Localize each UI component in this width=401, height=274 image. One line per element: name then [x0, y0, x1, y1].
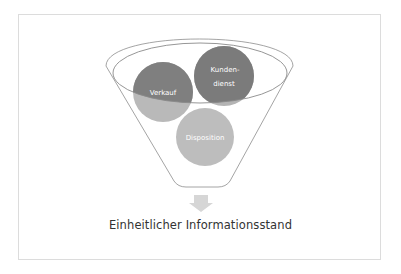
label-kundendienst-2: dienst: [213, 80, 235, 88]
label-kundendienst-1: Kunden-: [211, 66, 240, 74]
output-caption: Einheitlicher Informationsstand: [0, 218, 401, 232]
arrow-down-icon: [189, 195, 213, 212]
label-verkauf: Verkauf: [150, 89, 177, 97]
funnel-diagram: Verkauf Kunden- dienst Disposition: [0, 0, 401, 274]
label-disposition: Disposition: [186, 134, 225, 142]
